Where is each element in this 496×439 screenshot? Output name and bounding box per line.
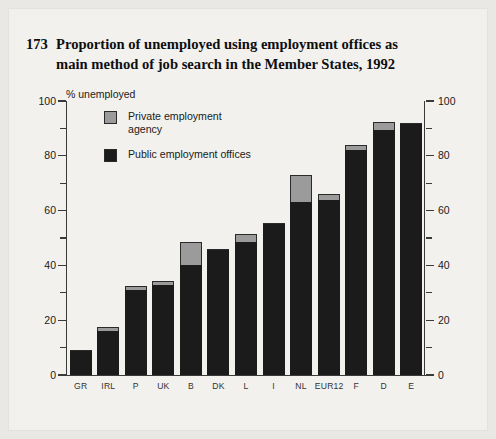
legend-label-private: Private employment agency [128,110,253,136]
y-axis-tick-right [426,265,434,266]
y-axis-tick-right [426,183,432,184]
bar-segment-public-DK [207,249,229,375]
bar-segment-public-B [180,265,202,375]
bar-E[interactable] [400,101,422,375]
legend-swatch-private-icon [104,111,117,124]
bar-segment-public-UK [152,285,174,375]
x-axis-label-DK: DK [205,381,233,391]
bar-segment-private-L [235,234,257,242]
y-axis-label-left-40: 40 [16,260,56,271]
legend-item-public: Public employment offices [104,148,324,174]
y-axis-tick-left [58,155,66,156]
bar-segment-private-P [125,286,147,290]
y-axis-tick-left [58,374,66,375]
bar-GR[interactable] [70,101,92,375]
y-axis-tick-left [60,237,66,238]
y-axis-label-left-80: 80 [16,150,56,161]
legend-item-private: Private employment agency [104,110,324,136]
y-axis-tick-right [426,155,434,156]
x-axis-label-F: F [342,381,370,391]
y-axis-unit-label: % unemployed [66,88,135,100]
x-axis-label-UK: UK [150,381,178,391]
y-axis-tick-right [426,347,432,348]
y-axis-tick-right [426,320,434,321]
x-axis-label-P: P [122,381,150,391]
y-axis-label-right-60: 60 [438,205,478,216]
x-axis-line [66,375,426,376]
y-axis-tick-left [58,265,66,266]
bar-segment-private-UK [152,281,174,285]
y-axis-tick-left [58,210,66,211]
y-axis-tick-right [426,292,432,293]
bar-segment-private-B [180,242,202,265]
bar-segment-public-D [373,130,395,375]
y-axis-tick-right [426,374,434,375]
bar-segment-public-F [345,150,367,375]
x-axis-label-EUR12: EUR12 [315,381,343,391]
chart-page: 173Proportion of unemployed using employ… [0,0,496,439]
bar-segment-public-EUR12 [318,200,340,375]
y-axis-label-left-100: 100 [16,96,56,107]
x-axis-label-GR: GR [67,381,95,391]
y-axis-tick-right [426,210,434,211]
x-axis-label-IRL: IRL [95,381,123,391]
legend-label-public: Public employment offices [128,148,253,161]
y-axis-tick-left [60,183,66,184]
y-axis-label-left-60: 60 [16,205,56,216]
plot-area: % unemployed 020406080100 020406080100 G… [0,0,496,439]
y-axis-label-right-40: 40 [438,260,478,271]
x-axis-label-E: E [397,381,425,391]
x-axis-label-B: B [177,381,205,391]
y-axis-label-left-20: 20 [16,315,56,326]
y-axis-tick-left [60,347,66,348]
y-axis-tick-right [426,237,432,238]
y-axis-tick-left [58,100,66,101]
x-axis-label-I: I [260,381,288,391]
bar-segment-public-P [125,290,147,375]
bar-D[interactable] [373,101,395,375]
chart-legend: Private employment agency Public employm… [104,110,324,186]
bar-segment-public-IRL [97,331,119,375]
bar-segment-public-NL [290,202,312,375]
bar-segment-public-GR [70,350,92,375]
bar-F[interactable] [345,101,367,375]
x-axis-label-L: L [232,381,260,391]
bar-segment-public-E [400,123,422,375]
y-axis-tick-left [58,320,66,321]
x-axis-label-NL: NL [287,381,315,391]
bar-segment-private-D [373,122,395,130]
y-axis-label-right-80: 80 [438,150,478,161]
y-axis-tick-right [426,128,432,129]
bar-segment-public-I [263,223,285,375]
bar-segment-private-IRL [97,327,119,331]
bar-segment-private-EUR12 [318,194,340,199]
y-axis-tick-left [60,292,66,293]
y-axis-tick-left [60,128,66,129]
x-axis-label-D: D [370,381,398,391]
y-axis-label-right-20: 20 [438,315,478,326]
bar-segment-public-L [235,242,257,375]
y-axis-label-right-100: 100 [438,96,478,107]
legend-swatch-public-icon [104,149,117,162]
y-axis-tick-right [426,100,434,101]
y-axis-label-left-0: 0 [16,370,56,381]
bar-segment-private-F [345,145,367,150]
y-axis-label-right-0: 0 [438,370,478,381]
x-axis-labels: GRIRLPUKBDKLINLEUR12FDE [67,381,425,397]
